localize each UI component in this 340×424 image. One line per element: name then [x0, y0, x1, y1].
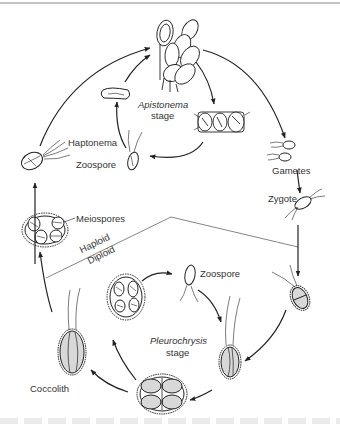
pleurochrysis-stage-label: Pleurochrysis [150, 336, 207, 346]
fragment-cell-icon [101, 88, 129, 99]
meiospores-icon [22, 213, 75, 247]
zoospore-diploid-label: Zoospore [200, 269, 240, 279]
coccolith-label: Coccolith [30, 384, 69, 394]
apistonema-stage-word: stage [151, 111, 174, 121]
gametes-label: Gametes [272, 166, 311, 176]
meiospores-label: Meiospores [76, 214, 125, 224]
haptonema-label: Haptonema [68, 138, 117, 148]
coccolith-cell-right-icon [219, 296, 241, 379]
zygote-label: Zygote [268, 194, 297, 204]
zoospore-haploid-label: Zoospore [76, 160, 116, 170]
figure-caption-faded [0, 418, 340, 424]
diploid-motile-cell-icon [272, 265, 314, 314]
pleurochrysis-stage-word: stage [166, 348, 189, 358]
zoospore-haploid-icon [126, 130, 142, 171]
apistonema-colony-icon [155, 17, 204, 92]
haptonema-cell-icon [19, 140, 70, 173]
dividing-cells-icon [194, 112, 250, 132]
apistonema-stage-label: Apistonema [138, 100, 188, 110]
life-cycle-diagram [0, 0, 340, 424]
zoospore-diploid-icon [180, 264, 198, 302]
dividing-coccolith-cell-icon [137, 374, 187, 414]
gametes-icon [267, 141, 295, 161]
coccolith-cell-left-icon [58, 288, 86, 375]
sporangium-icon [107, 274, 145, 320]
